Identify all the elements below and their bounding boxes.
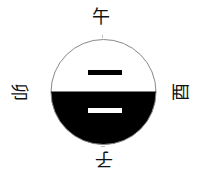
label-mao-east: 卯 bbox=[8, 82, 28, 102]
top-tick-mark bbox=[102, 35, 103, 38]
label-zi-north: 子 bbox=[94, 148, 114, 168]
lower-line-bar bbox=[88, 108, 122, 113]
label-wu-south: 午 bbox=[91, 8, 111, 28]
lower-half-black bbox=[51, 92, 156, 145]
bottom-tick-mark bbox=[101, 146, 105, 147]
upper-line-bar bbox=[88, 70, 122, 75]
label-you-west: 酉 bbox=[172, 82, 192, 102]
